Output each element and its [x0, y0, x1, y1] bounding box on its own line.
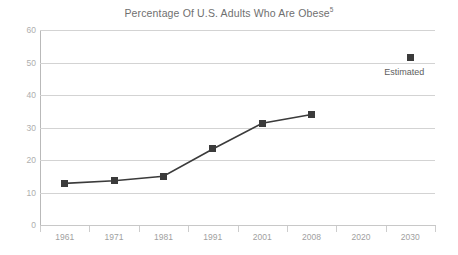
data-point-marker-2008: [308, 111, 315, 118]
series-polyline: [65, 115, 312, 184]
obesity-line-chart: Percentage Of U.S. Adults Who Are Obese5…: [0, 0, 458, 255]
data-point-marker-2030: [407, 54, 414, 61]
series-line-path: [0, 0, 458, 255]
x-tick-label-2030: 2030: [380, 232, 440, 243]
data-point-marker-1991: [209, 145, 216, 152]
data-point-marker-2001: [259, 120, 266, 127]
data-point-marker-1961: [61, 180, 68, 187]
data-point-marker-1971: [111, 177, 118, 184]
estimated-annotation-label: Estimated: [348, 67, 424, 77]
data-point-marker-1981: [160, 173, 167, 180]
